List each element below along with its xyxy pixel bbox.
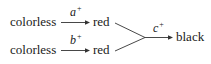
label-a: a+ <box>70 4 82 19</box>
label-b: b+ <box>70 32 82 47</box>
node-colorless-1: colorless <box>10 14 56 29</box>
arrow-c <box>145 35 173 39</box>
arrow-a <box>61 20 90 24</box>
node-red-2: red <box>93 42 110 57</box>
node-colorless-2: colorless <box>10 42 56 57</box>
arrow-b <box>61 48 90 52</box>
label-c: c+ <box>153 20 164 35</box>
node-black: black <box>176 29 205 44</box>
node-red-1: red <box>93 14 110 29</box>
merge-lines <box>115 23 145 51</box>
pathway-diagram: colorless a+ red colorless b+ red c+ bla… <box>0 0 211 64</box>
